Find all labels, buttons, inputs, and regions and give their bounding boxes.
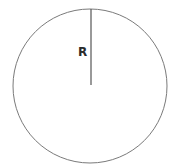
circle-radius-diagram: R	[0, 0, 182, 165]
circle-outline	[13, 9, 167, 163]
radius-label: R	[78, 45, 87, 59]
